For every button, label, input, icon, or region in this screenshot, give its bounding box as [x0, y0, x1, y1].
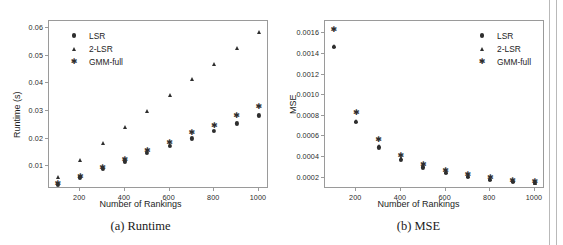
y-tick-label: 0.01	[0, 161, 43, 170]
legend-circle-icon	[72, 33, 76, 37]
y-tick-label: 0.0006	[278, 131, 319, 140]
data-point-gmm-full: ✱	[420, 163, 427, 167]
x-tick-mark	[79, 188, 80, 191]
legend-item-gmm-full[interactable]: ✱GMM-full	[63, 55, 123, 68]
legend-triangle-icon	[72, 47, 76, 51]
y-tick-label: 0.05	[0, 50, 43, 59]
x-tick-label: 200	[73, 193, 85, 202]
data-point-gmm-full: ✱	[166, 141, 173, 145]
figure-root: ✱✱✱✱✱✱✱✱✱✱ LSR2-LSR✱GMM-full 0.010.020.0…	[0, 0, 563, 245]
data-point-gmm-full: ✱	[256, 105, 263, 109]
axes-mse: ✱✱✱✱✱✱✱✱✱✱ LSR2-LSR✱GMM-full	[324, 20, 544, 188]
data-point-2-lsr	[56, 175, 60, 179]
legend-marker-circle-icon	[63, 33, 85, 37]
data-point-2-lsr	[78, 158, 82, 162]
x-tick-mark	[169, 188, 170, 191]
x-tick-label: 800	[483, 193, 495, 202]
data-point-2-lsr	[235, 46, 239, 50]
data-point-2-lsr	[123, 125, 127, 129]
y-tick-label: 0.0010	[278, 90, 319, 99]
data-point-gmm-full: ✱	[375, 138, 382, 142]
legend-label: LSR	[493, 31, 513, 41]
x-tick-mark	[489, 188, 490, 191]
legend-item-2-lsr[interactable]: 2-LSR	[471, 42, 531, 55]
y-tick-mark	[321, 115, 324, 116]
legend-item-lsr[interactable]: LSR	[471, 29, 531, 42]
data-point-gmm-full: ✱	[233, 114, 240, 118]
data-point-gmm-full: ✱	[532, 180, 539, 184]
legend-item-gmm-full[interactable]: ✱GMM-full	[471, 55, 531, 68]
data-point-gmm-full: ✱	[122, 158, 129, 162]
legend-label: 2-LSR	[85, 44, 113, 54]
x-tick-mark	[534, 188, 535, 191]
y-tick-label: 0.04	[0, 78, 43, 87]
data-point-gmm-full: ✱	[55, 182, 62, 186]
y-axis-label-mse: MSE	[288, 94, 298, 114]
x-tick-mark	[355, 188, 356, 191]
legend-marker-star-icon: ✱	[63, 60, 85, 64]
data-point-2-lsr	[168, 93, 172, 97]
data-point-gmm-full: ✱	[465, 173, 472, 177]
legend-label: GMM-full	[493, 57, 531, 67]
y-tick-label: 0.0012	[278, 69, 319, 78]
caption-runtime: (a) Runtime	[0, 219, 281, 234]
x-tick-label: 1000	[526, 193, 542, 202]
data-point-2-lsr	[354, 119, 358, 123]
legend-star-icon: ✱	[71, 60, 78, 64]
panel-mse: ✱✱✱✱✱✱✱✱✱✱ LSR2-LSR✱GMM-full 0.00020.000…	[278, 0, 559, 245]
y-tick-label: 0.0014	[278, 48, 319, 57]
y-tick-mark	[321, 74, 324, 75]
data-point-gmm-full: ✱	[353, 111, 360, 115]
legend-item-lsr[interactable]: LSR	[63, 29, 123, 42]
axes-runtime: ✱✱✱✱✱✱✱✱✱✱ LSR2-LSR✱GMM-full	[48, 20, 268, 188]
data-point-gmm-full: ✱	[189, 131, 196, 135]
legend-marker-circle-icon	[471, 33, 493, 37]
x-tick-mark	[445, 188, 446, 191]
x-tick-mark	[124, 188, 125, 191]
y-tick-mark	[321, 156, 324, 157]
legend-marker-star-icon: ✱	[471, 60, 493, 64]
y-tick-mark	[45, 165, 48, 166]
y-tick-mark	[45, 55, 48, 56]
legend-mse: LSR2-LSR✱GMM-full	[467, 27, 535, 70]
x-tick-mark	[213, 188, 214, 191]
legend-star-icon: ✱	[479, 60, 486, 64]
x-tick-label: 200	[349, 193, 361, 202]
data-point-2-lsr	[257, 30, 261, 34]
y-tick-mark	[321, 32, 324, 33]
data-point-gmm-full: ✱	[211, 124, 218, 128]
x-tick-mark	[258, 188, 259, 191]
legend-marker-triangle-icon	[471, 47, 493, 51]
y-axis-label-runtime: Runtime (s)	[12, 91, 22, 138]
legend-label: GMM-full	[85, 57, 123, 67]
data-point-lsr	[235, 121, 239, 125]
legend-label: 2-LSR	[493, 44, 521, 54]
data-point-2-lsr	[212, 62, 216, 66]
data-point-gmm-full: ✱	[398, 154, 405, 158]
panel-runtime: ✱✱✱✱✱✱✱✱✱✱ LSR2-LSR✱GMM-full 0.010.020.0…	[0, 0, 281, 245]
data-point-2-lsr	[332, 44, 336, 48]
legend-circle-icon	[480, 33, 484, 37]
y-tick-label: 0.0002	[278, 172, 319, 181]
data-point-gmm-full: ✱	[509, 179, 516, 183]
y-tick-mark	[45, 138, 48, 139]
data-point-gmm-full: ✱	[487, 176, 494, 180]
y-tick-label: 0.0008	[278, 110, 319, 119]
x-tick-mark	[400, 188, 401, 191]
y-tick-label: 0.0016	[278, 28, 319, 37]
y-tick-label: 0.0004	[278, 152, 319, 161]
data-point-2-lsr	[190, 77, 194, 81]
data-point-gmm-full: ✱	[331, 28, 338, 32]
y-tick-mark	[321, 53, 324, 54]
data-point-gmm-full: ✱	[442, 169, 449, 173]
data-point-lsr	[257, 113, 261, 117]
legend-label: LSR	[85, 31, 105, 41]
x-tick-label: 1000	[250, 193, 266, 202]
data-point-gmm-full: ✱	[144, 149, 151, 153]
legend-runtime: LSR2-LSR✱GMM-full	[59, 27, 127, 70]
y-tick-mark	[321, 94, 324, 95]
y-tick-label: 0.06	[0, 22, 43, 31]
x-axis-label-mse: Number of Rankings	[377, 199, 459, 209]
y-tick-mark	[321, 177, 324, 178]
legend-item-2-lsr[interactable]: 2-LSR	[63, 42, 123, 55]
